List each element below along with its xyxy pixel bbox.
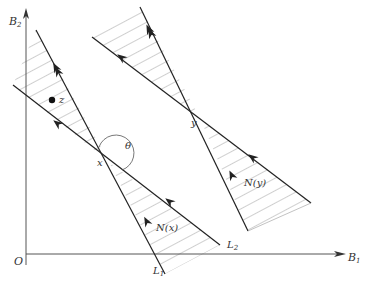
- point-z: [49, 97, 55, 103]
- x-axis-label: B1: [347, 251, 361, 265]
- l2-label: L2: [226, 239, 239, 252]
- cone-diagram: B2 B1 O L1 L2 x y z θ N(x) N(y): [0, 0, 365, 284]
- point-z-label: z: [58, 94, 65, 105]
- theta-label: θ: [125, 140, 131, 151]
- origin-label: O: [14, 255, 23, 268]
- ny-label: N(y): [243, 177, 266, 188]
- y-axis-label: B2: [8, 15, 22, 29]
- hatch-nx-region: [0, 0, 365, 284]
- point-x-label: x: [97, 157, 103, 168]
- nx-label: N(x): [155, 222, 178, 233]
- point-y-label: y: [190, 117, 197, 128]
- y-axis: [23, 8, 29, 265]
